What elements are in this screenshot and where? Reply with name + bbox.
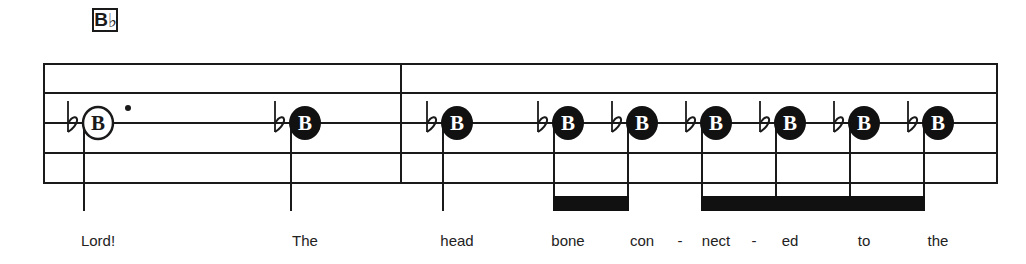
dot-icon <box>125 105 131 111</box>
note-label: B <box>709 111 723 135</box>
flat-icon <box>686 117 695 132</box>
lyric-hyphen: - <box>752 232 757 249</box>
note-label: B <box>635 111 649 135</box>
lyric-syllable: head <box>440 232 473 249</box>
note-label: B <box>91 111 105 135</box>
flat-icon <box>834 117 843 132</box>
note-label: B <box>561 111 575 135</box>
note-label: B <box>450 111 464 135</box>
music-staff: BBBBBBBBB <box>0 0 1026 230</box>
lyric-hyphen: - <box>678 232 683 249</box>
flat-icon <box>427 117 436 132</box>
lyric-syllable: con <box>630 232 654 249</box>
flat-icon <box>908 117 917 132</box>
lyric-syllable: The <box>292 232 318 249</box>
lyric-syllable: ed <box>782 232 799 249</box>
note-label: B <box>857 111 871 135</box>
lyric-syllable: Lord! <box>81 232 115 249</box>
lyric-syllable: bone <box>551 232 584 249</box>
flat-icon <box>68 117 77 132</box>
beam <box>701 196 925 211</box>
note-label: B <box>298 111 312 135</box>
note-label: B <box>783 111 797 135</box>
lyric-syllable: the <box>928 232 949 249</box>
beam <box>553 196 629 211</box>
flat-icon <box>538 117 547 132</box>
note-label: B <box>931 111 945 135</box>
flat-icon <box>612 117 621 132</box>
flat-icon <box>275 117 284 132</box>
flat-icon <box>760 117 769 132</box>
lyric-syllable: nect <box>702 232 730 249</box>
lyric-syllable: to <box>858 232 871 249</box>
